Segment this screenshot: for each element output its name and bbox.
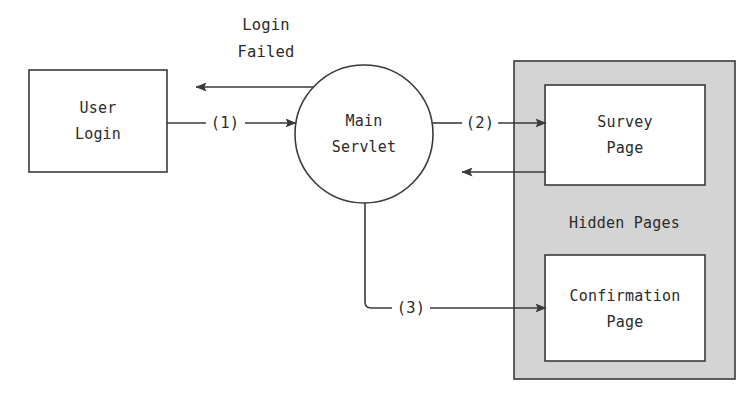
edge-login-to-servlet: (1) [167, 114, 296, 132]
user-login-label-line2: Login [75, 125, 121, 143]
user-login-label-line1: User [80, 99, 117, 117]
main-servlet-label-line1: Main [346, 112, 383, 130]
edge-3-segment-elbow [365, 203, 392, 308]
confirmation-page-box[interactable] [545, 255, 705, 361]
confirmation-page-label-line2: Page [607, 313, 644, 331]
edge-login-failed-label-line1: Login [242, 16, 290, 34]
edge-servlet-to-login: Login Failed [196, 16, 314, 88]
user-login-box[interactable] [29, 70, 167, 172]
diagram-root: Hidden Pages User Login Main Servlet Sur… [0, 0, 755, 402]
survey-page-box[interactable] [545, 85, 705, 185]
node-confirmation-page[interactable]: Confirmation Page [545, 255, 705, 361]
node-main-servlet[interactable]: Main Servlet [295, 65, 433, 203]
survey-page-label-line1: Survey [597, 113, 652, 131]
edge-2-label: (2) [466, 114, 495, 132]
hidden-pages-label: Hidden Pages [569, 214, 680, 232]
node-user-login[interactable]: User Login [29, 70, 167, 172]
confirmation-page-label-line1: Confirmation [570, 287, 681, 305]
flow-diagram-canvas: Hidden Pages User Login Main Servlet Sur… [0, 0, 755, 402]
edge-login-failed-label-line2: Failed [237, 43, 294, 61]
edge-3-label: (3) [397, 299, 426, 317]
edge-1-label: (1) [211, 114, 240, 132]
main-servlet-label-line2: Servlet [332, 138, 397, 156]
main-servlet-circle[interactable] [295, 65, 433, 203]
node-survey-page[interactable]: Survey Page [545, 85, 705, 185]
survey-page-label-line2: Page [607, 139, 644, 157]
